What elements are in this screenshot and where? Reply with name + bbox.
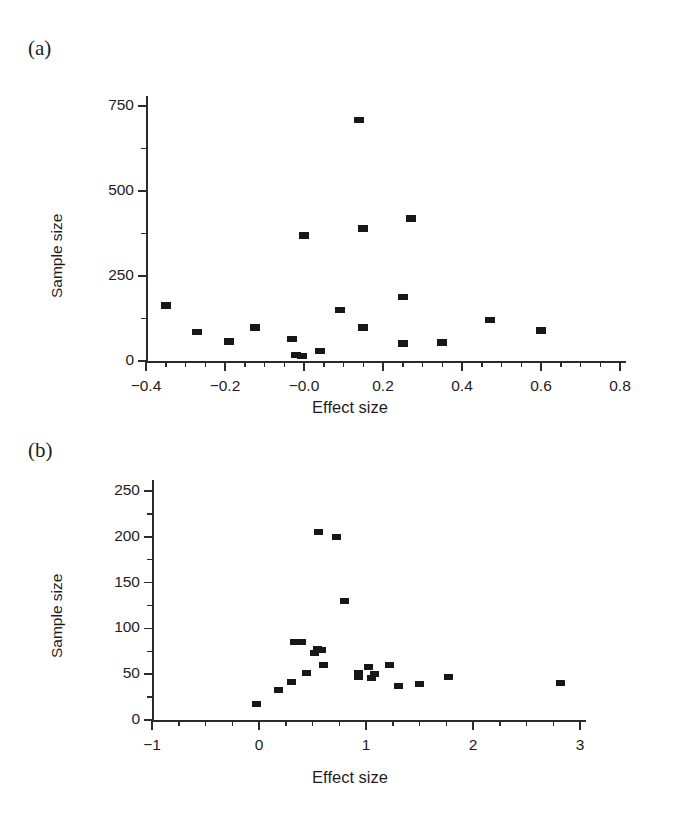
x-tick-label: 0.4 bbox=[451, 377, 473, 395]
x-tick-label: 0.8 bbox=[609, 377, 631, 395]
x-tick-minor bbox=[312, 720, 314, 726]
x-tick-minor bbox=[339, 720, 341, 726]
y-tick-minor bbox=[141, 233, 147, 235]
y-tick-major bbox=[144, 536, 153, 538]
data-point bbox=[415, 681, 424, 687]
x-tick-label: 3 bbox=[576, 736, 585, 754]
data-point bbox=[406, 215, 416, 222]
panel-b-tag: (b) bbox=[28, 438, 53, 463]
y-tick-label: 200 bbox=[114, 527, 140, 545]
data-point bbox=[192, 329, 202, 336]
y-tick-minor bbox=[147, 513, 153, 515]
y-tick-major bbox=[144, 628, 153, 630]
panel-a-y-axis-label: Sample size bbox=[48, 214, 66, 298]
x-tick-major bbox=[472, 720, 474, 730]
panel-b: (b) 050100150200250−10123 Sample size Ef… bbox=[0, 420, 695, 820]
x-tick-minor bbox=[580, 361, 582, 367]
data-point bbox=[250, 324, 260, 331]
y-tick-label: 500 bbox=[108, 181, 134, 199]
data-point bbox=[536, 327, 546, 334]
y-tick-minor bbox=[141, 318, 147, 320]
x-tick-major bbox=[151, 720, 153, 730]
x-tick-minor bbox=[178, 720, 180, 726]
x-tick-label: −0.2 bbox=[210, 377, 241, 395]
x-tick-minor bbox=[232, 720, 234, 726]
x-tick-minor bbox=[244, 361, 246, 367]
data-point bbox=[444, 674, 453, 680]
x-tick-major bbox=[365, 720, 367, 730]
y-tick-minor bbox=[147, 605, 153, 607]
x-tick-minor bbox=[446, 720, 448, 726]
x-tick-minor bbox=[264, 361, 266, 367]
x-tick-minor bbox=[481, 361, 483, 367]
data-point bbox=[287, 336, 297, 343]
y-tick-major bbox=[138, 275, 147, 277]
panel-b-y-axis-label: Sample size bbox=[48, 574, 66, 658]
y-tick-label: 50 bbox=[123, 664, 140, 682]
x-tick-minor bbox=[521, 361, 523, 367]
data-point bbox=[161, 302, 171, 309]
x-tick-label: −1 bbox=[143, 736, 161, 754]
y-tick-major bbox=[138, 105, 147, 107]
y-axis-line bbox=[152, 480, 154, 721]
data-point bbox=[319, 662, 328, 668]
y-tick-major bbox=[144, 490, 153, 492]
data-point bbox=[398, 294, 408, 301]
figure-root: (a) 0250500750−0.4−0.2−0.00.20.40.60.8 S… bbox=[0, 0, 695, 820]
x-tick-minor bbox=[560, 361, 562, 367]
x-tick-minor bbox=[284, 361, 286, 367]
x-tick-minor bbox=[422, 361, 424, 367]
x-tick-label: 1 bbox=[362, 736, 371, 754]
y-tick-major bbox=[144, 582, 153, 584]
panel-a: (a) 0250500750−0.4−0.2−0.00.20.40.60.8 S… bbox=[0, 0, 695, 420]
x-tick-minor bbox=[499, 720, 501, 726]
x-tick-label: 0 bbox=[255, 736, 264, 754]
y-tick-minor bbox=[147, 559, 153, 561]
x-tick-label: 0.6 bbox=[530, 377, 552, 395]
data-point bbox=[314, 529, 323, 535]
data-point bbox=[317, 647, 326, 653]
y-tick-label: 750 bbox=[108, 96, 134, 114]
x-tick-minor bbox=[343, 361, 345, 367]
x-tick-minor bbox=[501, 361, 503, 367]
x-tick-major bbox=[382, 361, 384, 371]
data-point bbox=[364, 664, 373, 670]
data-point bbox=[485, 317, 495, 324]
data-point bbox=[437, 339, 447, 346]
x-tick-minor bbox=[526, 720, 528, 726]
x-tick-major bbox=[540, 361, 542, 371]
data-point bbox=[302, 670, 311, 676]
x-tick-minor bbox=[323, 361, 325, 367]
data-point bbox=[556, 680, 565, 686]
x-tick-label: −0.0 bbox=[289, 377, 320, 395]
x-tick-major bbox=[224, 361, 226, 371]
data-point bbox=[274, 687, 283, 693]
x-tick-label: −0.4 bbox=[131, 377, 162, 395]
x-tick-label: 2 bbox=[469, 736, 478, 754]
x-axis-line bbox=[146, 361, 626, 363]
y-tick-label: 250 bbox=[114, 481, 140, 499]
data-point bbox=[370, 671, 379, 677]
x-tick-minor bbox=[392, 720, 394, 726]
panel-a-x-axis-label: Effect size bbox=[312, 398, 388, 417]
data-point bbox=[358, 324, 368, 331]
data-point bbox=[287, 679, 296, 685]
x-tick-major bbox=[258, 720, 260, 730]
y-tick-label: 150 bbox=[114, 573, 140, 591]
data-point bbox=[299, 232, 309, 239]
y-tick-label: 250 bbox=[108, 266, 134, 284]
data-point bbox=[332, 534, 341, 540]
panel-b-x-axis-label: Effect size bbox=[312, 768, 388, 787]
data-point bbox=[297, 353, 307, 360]
x-tick-major bbox=[579, 720, 581, 730]
x-tick-minor bbox=[402, 361, 404, 367]
x-tick-major bbox=[619, 361, 621, 371]
y-axis-line bbox=[146, 96, 148, 362]
x-tick-minor bbox=[442, 361, 444, 367]
data-point bbox=[315, 348, 325, 355]
y-tick-major bbox=[138, 190, 147, 192]
x-tick-minor bbox=[285, 720, 287, 726]
x-tick-minor bbox=[165, 361, 167, 367]
y-tick-label: 100 bbox=[114, 618, 140, 636]
panel-a-tag: (a) bbox=[28, 36, 51, 61]
